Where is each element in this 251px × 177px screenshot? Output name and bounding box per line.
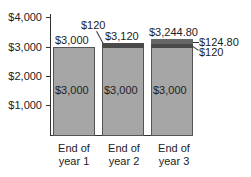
leader-line <box>192 46 198 51</box>
x-label-line1: End of <box>99 142 149 155</box>
x-label-year-3: End of year 3 <box>149 142 199 168</box>
x-label-line2: year 2 <box>99 155 149 168</box>
inner-label-year-2: $3,000 <box>104 84 138 96</box>
x-label-year-2: End of year 2 <box>99 142 149 168</box>
annotation-120-year-2: $120 <box>81 19 105 31</box>
y-tick-label-4000: $4,000 <box>0 11 42 23</box>
x-label-line2: year 1 <box>49 155 99 168</box>
y-tick-label-2000: $2,000 <box>0 70 42 82</box>
bar-year-2-interest <box>102 43 144 48</box>
y-tick-label-3000: $3,000 <box>0 41 42 53</box>
inner-label-year-1: $3,000 <box>55 84 89 96</box>
total-label-year-1: $3,000 <box>55 34 89 46</box>
leader-line <box>193 42 199 43</box>
x-label-line2: year 3 <box>149 155 199 168</box>
x-label-line1: End of <box>149 142 199 155</box>
bar-year-3-interest-124 <box>151 39 193 44</box>
annotation-120-year-3: $120 <box>199 46 223 58</box>
total-label-year-2: $3,120 <box>105 30 139 42</box>
y-tick-label-1000: $1,000 <box>0 99 42 111</box>
total-label-year-3: $3,244.80 <box>149 26 198 38</box>
leader-line <box>96 31 103 44</box>
x-label-year-1: End of year 1 <box>49 142 99 168</box>
x-label-line1: End of <box>49 142 99 155</box>
inner-label-year-3: $3,000 <box>153 84 187 96</box>
y-axis <box>50 14 51 136</box>
